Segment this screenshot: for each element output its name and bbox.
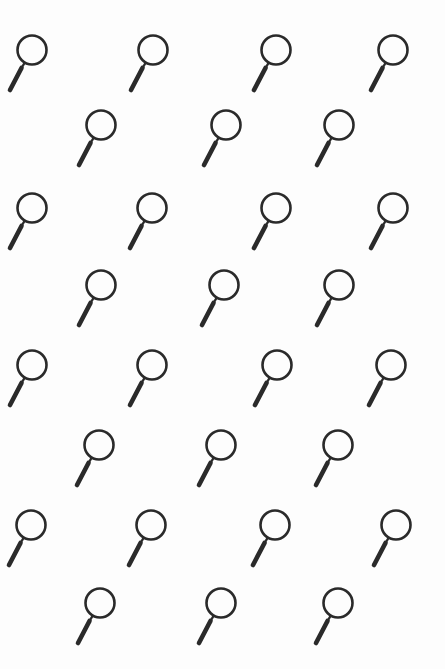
magnifying-glass-icon	[4, 192, 48, 256]
magnifying-glass-icon	[365, 192, 409, 256]
magnifying-glass-icon	[363, 349, 407, 413]
magnifying-glass-icon	[123, 509, 167, 573]
magnifying-glass-icon	[71, 429, 115, 493]
magnifying-glass-icon	[311, 269, 355, 333]
magnifying-glass-icon	[310, 587, 354, 651]
magnifying-glass-icon	[311, 109, 355, 173]
magnifier-pattern	[0, 0, 445, 669]
magnifying-glass-icon	[249, 349, 293, 413]
magnifying-glass-icon	[124, 192, 168, 256]
magnifying-glass-icon	[72, 587, 116, 651]
magnifying-glass-icon	[4, 34, 48, 98]
magnifying-glass-icon	[125, 34, 169, 98]
magnifying-glass-icon	[4, 349, 48, 413]
magnifying-glass-icon	[73, 269, 117, 333]
magnifying-glass-icon	[248, 192, 292, 256]
magnifying-glass-icon	[198, 109, 242, 173]
magnifying-glass-icon	[193, 587, 237, 651]
magnifying-glass-icon	[193, 429, 237, 493]
magnifying-glass-icon	[124, 349, 168, 413]
magnifying-glass-icon	[365, 34, 409, 98]
magnifying-glass-icon	[196, 269, 240, 333]
magnifying-glass-icon	[368, 509, 412, 573]
magnifying-glass-icon	[247, 509, 291, 573]
magnifying-glass-icon	[73, 109, 117, 173]
magnifying-glass-icon	[248, 34, 292, 98]
magnifying-glass-icon	[310, 429, 354, 493]
magnifying-glass-icon	[3, 509, 47, 573]
